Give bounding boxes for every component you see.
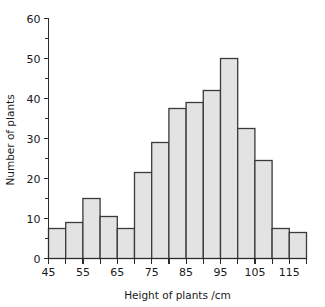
histogram-bar: [238, 129, 255, 259]
x-axis-title: Height of plants /cm: [124, 289, 231, 301]
histogram-bar: [186, 103, 203, 259]
histogram-bar: [135, 173, 152, 259]
y-axis-title: Number of plants: [4, 94, 16, 185]
y-axis-tick-label: 60: [27, 13, 41, 26]
x-axis-tick-label: 45: [42, 266, 56, 279]
y-axis-tick-label: 20: [27, 173, 41, 186]
histogram-bar: [83, 199, 100, 259]
x-axis-tick-label: 115: [279, 266, 300, 279]
histogram-bar: [152, 143, 169, 259]
bars-group: [49, 59, 307, 259]
y-axis-tick-label: 30: [27, 133, 41, 146]
histogram-bar: [49, 229, 66, 259]
x-axis-tick-label: 55: [76, 266, 90, 279]
histogram-bar: [66, 223, 83, 259]
histogram-chart: 0102030405060455565758595105115 Height o…: [0, 0, 325, 307]
x-axis-tick-label: 95: [214, 266, 228, 279]
chart-canvas: 0102030405060455565758595105115 Height o…: [0, 0, 325, 307]
y-axis-tick-label: 40: [27, 93, 41, 106]
y-axis-tick-label: 10: [27, 213, 41, 226]
x-axis-tick-label: 105: [244, 266, 265, 279]
histogram-bar: [272, 229, 289, 259]
x-axis-tick-label: 85: [179, 266, 193, 279]
histogram-bar: [169, 109, 186, 259]
histogram-bar: [221, 59, 238, 259]
histogram-bar: [100, 217, 117, 259]
histogram-bar: [255, 161, 272, 259]
x-axis-tick-label: 75: [145, 266, 159, 279]
histogram-bar: [203, 91, 220, 259]
x-axis-tick-label: 65: [110, 266, 124, 279]
histogram-bar: [117, 229, 134, 259]
histogram-bar: [289, 233, 306, 259]
y-axis-tick-label: 50: [27, 53, 41, 66]
y-axis-tick-label: 0: [34, 253, 41, 266]
